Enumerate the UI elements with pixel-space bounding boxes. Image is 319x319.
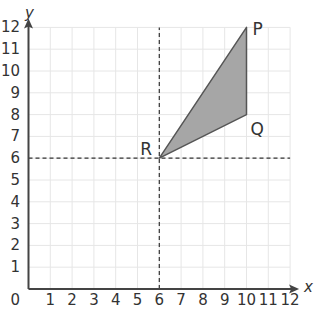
x-tick-label: 8 xyxy=(198,291,208,309)
x-tick-label: 11 xyxy=(259,291,278,309)
y-tick-label: 6 xyxy=(10,149,20,167)
point-label-r: R xyxy=(140,139,152,159)
coordinate-diagram: 123456789101112 123456789101112 0 x y PQ… xyxy=(0,0,319,319)
point-label-q: Q xyxy=(251,119,264,139)
y-tick-label: 12 xyxy=(1,18,20,36)
x-axis-label: x xyxy=(303,278,313,296)
x-tick-label: 3 xyxy=(89,291,99,309)
x-tick-label: 10 xyxy=(237,291,256,309)
y-tick-label: 5 xyxy=(10,171,20,189)
y-tick-label: 3 xyxy=(10,215,20,233)
y-tick-label: 1 xyxy=(10,258,20,276)
x-tick-label: 9 xyxy=(220,291,230,309)
x-tick-label: 7 xyxy=(176,291,186,309)
y-tick-label: 8 xyxy=(10,106,20,124)
y-tick-labels: 123456789101112 xyxy=(1,18,20,276)
y-tick-label: 2 xyxy=(10,236,20,254)
x-tick-label: 6 xyxy=(155,291,165,309)
x-tick-labels: 123456789101112 xyxy=(46,291,300,309)
x-tick-label: 1 xyxy=(46,291,56,309)
y-tick-label: 11 xyxy=(1,40,20,58)
y-tick-label: 10 xyxy=(1,62,20,80)
y-tick-label: 7 xyxy=(10,127,20,145)
point-label-p: P xyxy=(253,19,263,39)
x-tick-label: 4 xyxy=(111,291,121,309)
y-tick-label: 9 xyxy=(10,84,20,102)
x-tick-label: 2 xyxy=(67,291,77,309)
y-tick-label: 4 xyxy=(10,193,20,211)
y-axis-label: y xyxy=(24,4,35,22)
origin-label: 0 xyxy=(10,291,20,309)
x-tick-label: 12 xyxy=(281,291,300,309)
x-tick-label: 5 xyxy=(133,291,143,309)
